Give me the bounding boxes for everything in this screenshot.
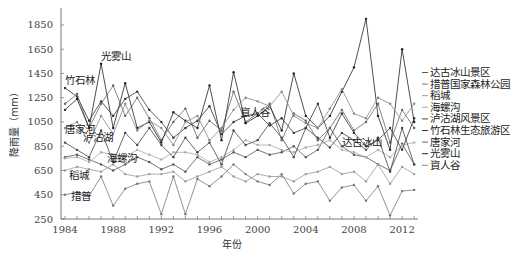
data-point [100, 163, 102, 165]
data-point [160, 158, 162, 160]
data-point [148, 154, 150, 156]
data-point [353, 154, 355, 156]
data-point [293, 132, 295, 134]
data-point [100, 115, 102, 117]
data-point [172, 121, 174, 123]
data-point [389, 170, 391, 172]
legend-label: 达古冰山景区 [430, 66, 490, 78]
series-annotation: 海螺沟 [107, 152, 137, 164]
data-point [413, 173, 415, 175]
data-point [413, 121, 415, 123]
data-point [305, 183, 307, 185]
data-point [341, 112, 343, 114]
data-point [353, 112, 355, 114]
data-point [172, 156, 174, 158]
data-point [244, 180, 246, 182]
data-point [232, 71, 234, 73]
data-point [208, 185, 210, 187]
data-point [377, 103, 379, 105]
legend: 达古冰山景区措普国家森林公园稻城海螺沟泸沽湖风景区竹石林生态旅游区唐家河光雾山資… [422, 66, 510, 171]
data-point [401, 149, 403, 151]
series-line [65, 128, 414, 172]
data-point [268, 122, 270, 124]
data-point [401, 190, 403, 192]
data-point [377, 115, 379, 117]
data-point [124, 98, 126, 100]
data-point [208, 170, 210, 172]
data-point [317, 139, 319, 141]
data-point [281, 90, 283, 92]
data-point [329, 107, 331, 109]
data-point [268, 124, 270, 126]
data-point [148, 120, 150, 122]
data-point [317, 144, 319, 146]
data-point [329, 200, 331, 202]
data-point [160, 144, 162, 146]
data-point [208, 105, 210, 107]
data-point [401, 109, 403, 111]
data-point [196, 115, 198, 117]
data-point [208, 139, 210, 141]
data-point [220, 127, 222, 129]
data-point [244, 156, 246, 158]
rainfall-line-chart: 2504506508501050125014501650185019841988… [0, 0, 513, 257]
data-point [232, 129, 234, 131]
data-point [377, 97, 379, 99]
data-point [305, 122, 307, 124]
data-point [365, 121, 367, 123]
data-point [208, 120, 210, 122]
data-point [353, 151, 355, 153]
x-tick-label: 2008 [341, 224, 366, 235]
data-point [100, 151, 102, 153]
y-tick-label: 1850 [28, 19, 53, 30]
data-point [401, 48, 403, 50]
data-point [341, 186, 343, 188]
data-point [232, 163, 234, 165]
data-point [196, 127, 198, 129]
data-point [232, 149, 234, 151]
x-tick-label: 1988 [100, 224, 125, 235]
data-point [100, 170, 102, 172]
data-point [281, 151, 283, 153]
data-point [64, 157, 66, 159]
data-point [281, 117, 283, 119]
x-tick-label: 1984 [52, 224, 77, 235]
data-point [136, 149, 138, 151]
data-point [148, 127, 150, 129]
data-point [353, 132, 355, 134]
data-point [305, 156, 307, 158]
data-point [64, 103, 66, 105]
legend-label: 竹石林生态旅游区 [430, 124, 510, 136]
data-point [401, 144, 403, 146]
data-point [401, 127, 403, 129]
data-point [124, 173, 126, 175]
data-point [112, 84, 114, 86]
data-point [244, 173, 246, 175]
data-point [100, 103, 102, 105]
data-point [172, 111, 174, 113]
data-point [184, 127, 186, 129]
data-point [365, 117, 367, 119]
data-point [268, 184, 270, 186]
data-point [389, 149, 391, 151]
data-point [136, 144, 138, 146]
data-point [196, 178, 198, 180]
data-point [244, 139, 246, 141]
data-point [413, 163, 415, 165]
series-annotation: 稻城 [69, 169, 90, 181]
data-point [256, 180, 258, 182]
data-point [232, 121, 234, 123]
data-point [389, 127, 391, 129]
data-point [293, 180, 295, 182]
data-point [341, 132, 343, 134]
data-point [160, 127, 162, 129]
data-point [76, 166, 78, 168]
y-tick-label: 250 [34, 214, 53, 225]
data-point [208, 161, 210, 163]
data-point [76, 156, 78, 158]
data-point [148, 161, 150, 163]
legend-label: 唐家河 [430, 136, 461, 148]
data-point [413, 189, 415, 191]
data-point [124, 115, 126, 117]
data-point [172, 170, 174, 172]
